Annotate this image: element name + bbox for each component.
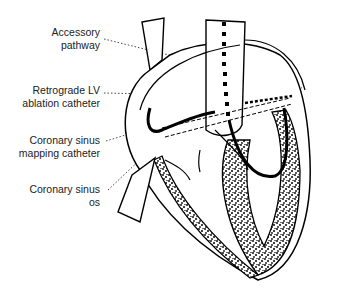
inferior-vena-cava <box>118 158 155 222</box>
label-accessory-pathway: Accessory pathway <box>52 26 100 52</box>
label-retrograde-lv-ablation-catheter: Retrograde LV ablation catheter <box>22 84 100 110</box>
label-coronary-sinus-mapping-catheter: Coronary sinus mapping catheter <box>19 134 100 160</box>
aorta <box>206 20 245 135</box>
label-coronary-sinus-os: Coronary sinus os <box>29 183 100 209</box>
